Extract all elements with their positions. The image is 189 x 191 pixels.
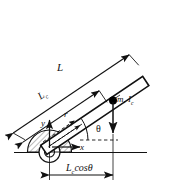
label-horizontal-projection-tail: cosθ — [74, 162, 92, 173]
label-horizontal-projection: Lccosθ — [66, 163, 93, 175]
label-theta-angle: θ — [96, 124, 101, 134]
rod-body — [41, 76, 149, 154]
diagram-canvas — [0, 0, 189, 191]
label-mass-inertia-main: m, I — [117, 94, 131, 104]
label-x-axis: x — [80, 143, 84, 152]
label-mass-inertia: m, Ic — [117, 95, 134, 107]
label-y-axis: y — [41, 119, 45, 128]
label-mass-inertia-subscript: c — [131, 100, 134, 106]
label-total-length: L — [57, 62, 63, 73]
pendulum-diagram: L Lc r y x θ m, Ic Lccosθ — [0, 0, 189, 191]
label-radial-axis: r — [64, 110, 68, 119]
